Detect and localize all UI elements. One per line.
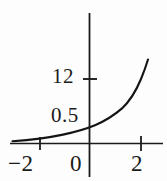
graph-figure: 12 0.5 −2 0 2: [0, 0, 167, 181]
x-axis-label-2: 2: [131, 152, 143, 175]
y-axis-label-12: 12: [52, 66, 74, 87]
x-axis-label-0: 0: [70, 152, 82, 175]
exponential-curve: [13, 60, 149, 142]
x-axis-label-neg2: −2: [8, 152, 33, 175]
y-axis-label-05: 0.5: [51, 105, 79, 126]
